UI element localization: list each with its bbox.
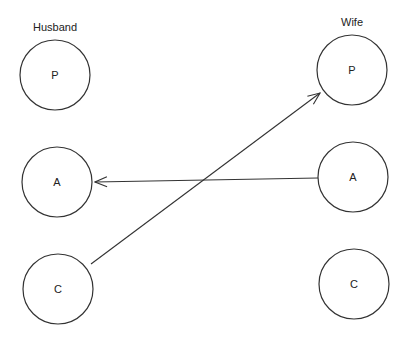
arrow-wife-adult-to-husband-adult: [95, 178, 318, 182]
husband-adult-node: A: [22, 147, 92, 217]
wife-child-label: C: [350, 278, 358, 290]
transaction-diagram: Husband Wife P A C P A C: [0, 0, 410, 343]
husband-child-node: C: [23, 254, 93, 324]
wife-parent-node: P: [317, 35, 387, 105]
wife-adult-node: A: [318, 142, 388, 212]
wife-adult-label: A: [349, 171, 357, 183]
husband-parent-node: P: [20, 40, 90, 110]
wife-column-title: Wife: [341, 16, 363, 28]
husband-column-title: Husband: [33, 21, 77, 33]
wife-child-node: C: [319, 249, 389, 319]
husband-child-label: C: [54, 283, 62, 295]
husband-parent-label: P: [51, 69, 58, 81]
wife-parent-label: P: [348, 64, 355, 76]
husband-adult-label: A: [53, 176, 61, 188]
